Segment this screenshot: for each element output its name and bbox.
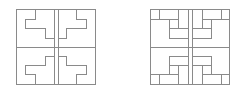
right-panel-quadrant-dissection	[151, 10, 230, 85]
dissection-figure-svg	[0, 0, 245, 94]
figure-canvas: Two dissections of a square Left square:…	[0, 0, 245, 94]
left-panel-pinwheel-dissection	[17, 10, 96, 85]
